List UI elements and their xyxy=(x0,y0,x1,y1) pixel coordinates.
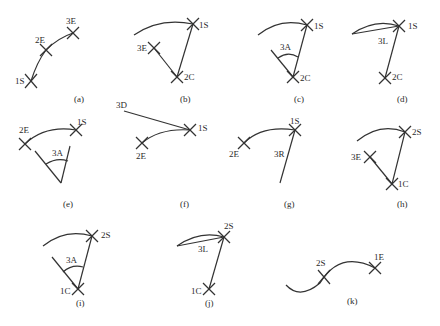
panel-f-drawing xyxy=(124,111,196,149)
label-1S: 1S xyxy=(314,22,324,31)
label-1S: 1S xyxy=(77,118,87,127)
label-2C: 2C xyxy=(300,74,311,83)
label-2S: 2S xyxy=(101,231,111,240)
caption-g: (g) xyxy=(284,200,295,209)
label-1S: 1S xyxy=(198,124,208,133)
panel-g-drawing xyxy=(238,124,301,183)
label-3R: 3R xyxy=(274,150,285,159)
panel-k-drawing xyxy=(286,262,381,292)
label-2C: 2C xyxy=(184,73,195,82)
label-2S: 2S xyxy=(224,222,234,231)
caption-j: (j) xyxy=(205,299,214,308)
diagram-svg xyxy=(0,0,440,326)
label-1C: 1C xyxy=(191,287,202,296)
label-2C: 2C xyxy=(392,73,403,82)
label-2E: 2E xyxy=(136,152,146,161)
figure-canvas: 3E 2E 1S (a) 1S 3E 2C (b) 1S 3A 2C (c) 1… xyxy=(0,0,440,326)
label-3A: 3A xyxy=(52,149,63,158)
panel-a-drawing xyxy=(25,27,79,88)
label-3L: 3L xyxy=(378,37,388,46)
caption-i: (i) xyxy=(76,299,85,308)
label-2S: 2S xyxy=(316,259,326,268)
label-3E: 3E xyxy=(137,44,147,53)
label-2E: 2E xyxy=(229,150,239,159)
label-1S: 1S xyxy=(15,77,25,86)
label-3L: 3L xyxy=(198,245,208,254)
label-1S: 1S xyxy=(199,21,209,30)
panel-j-drawing xyxy=(177,231,230,295)
label-3E: 3E xyxy=(351,153,361,162)
caption-f: (f) xyxy=(180,200,189,209)
label-3D: 3D xyxy=(116,101,127,110)
label-2E: 2E xyxy=(19,126,29,135)
label-3A: 3A xyxy=(66,256,77,265)
label-1E: 1E xyxy=(374,253,384,262)
label-1C: 1C xyxy=(398,180,409,189)
caption-h: (h) xyxy=(397,200,408,209)
label-3E: 3E xyxy=(66,17,76,26)
label-1S: 1S xyxy=(290,117,300,126)
caption-d: (d) xyxy=(397,95,408,104)
label-2S: 2S xyxy=(412,128,422,137)
caption-b: (b) xyxy=(180,95,191,104)
caption-a: (a) xyxy=(74,95,84,104)
label-1C: 1C xyxy=(60,287,71,296)
caption-e: (e) xyxy=(63,200,73,209)
label-1S: 1S xyxy=(408,22,418,31)
caption-c: (c) xyxy=(294,95,304,104)
caption-k: (k) xyxy=(347,297,358,306)
label-2E: 2E xyxy=(35,36,45,45)
label-3A: 3A xyxy=(280,43,291,52)
